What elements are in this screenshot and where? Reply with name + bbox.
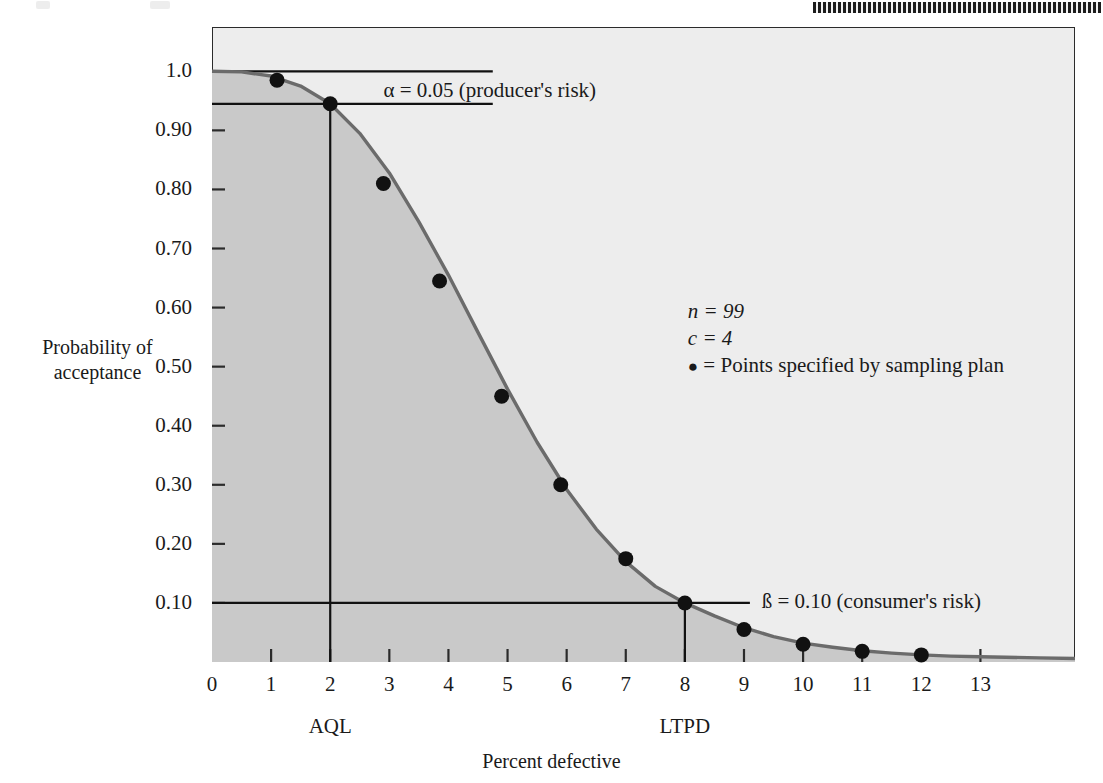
alpha-annotation: α = 0.05 (producer's risk) xyxy=(383,78,596,103)
x-tick-label: 12 xyxy=(901,674,941,695)
aql-label: AQL xyxy=(270,714,390,739)
x-tick-label: 9 xyxy=(724,674,764,695)
y-tick-label: 0.80 xyxy=(100,178,192,199)
legend-c: c = 4 xyxy=(688,326,733,350)
legend-n: n = 99 xyxy=(688,299,744,323)
x-tick-label: 3 xyxy=(369,674,409,695)
x-tick-label: 11 xyxy=(842,674,882,695)
data-point xyxy=(796,637,811,652)
y-tick-label: 0.70 xyxy=(100,238,192,259)
x-tick-label: 5 xyxy=(488,674,528,695)
data-point xyxy=(736,622,751,637)
x-tick-label: 7 xyxy=(606,674,646,695)
y-tick-label: 0.40 xyxy=(100,415,192,436)
x-axis-title: Percent defective xyxy=(0,750,1103,773)
y-axis-title-line-2: acceptance xyxy=(10,360,185,385)
x-tick-label: 6 xyxy=(547,674,587,695)
y-tick-label: 0.60 xyxy=(100,297,192,318)
data-point xyxy=(855,644,870,659)
y-tick-label: 0.20 xyxy=(100,533,192,554)
y-axis-title-line-1: Probability of xyxy=(10,335,185,360)
plan-legend: n = 99 c = 4 ● = Points specified by sam… xyxy=(688,298,1004,380)
data-point xyxy=(432,274,447,289)
data-point xyxy=(914,647,929,662)
x-tick-label: 10 xyxy=(783,674,823,695)
legend-points-text: = Points specified by sampling plan xyxy=(703,353,1004,377)
data-point xyxy=(553,477,568,492)
data-point xyxy=(270,73,285,88)
legend-point-icon: ● xyxy=(688,357,698,376)
x-tick-label: 8 xyxy=(665,674,705,695)
y-axis-title: Probability of acceptance xyxy=(10,335,185,385)
x-tick-label: 1 xyxy=(251,674,291,695)
data-point xyxy=(323,96,338,111)
data-point xyxy=(677,595,692,610)
data-point xyxy=(618,551,633,566)
ltpd-label: LTPD xyxy=(625,714,745,739)
beta-annotation: ß = 0.10 (consumer's risk) xyxy=(762,589,981,614)
y-tick-label: 0.90 xyxy=(100,119,192,140)
data-point xyxy=(376,176,391,191)
data-point xyxy=(494,389,509,404)
y-tick-label: 0.30 xyxy=(100,474,192,495)
oc-curve-figure: 0.100.200.300.400.500.600.700.800.901.0 … xyxy=(0,0,1103,783)
x-tick-label: 13 xyxy=(960,674,1000,695)
x-tick-label: 0 xyxy=(192,674,232,695)
x-tick-label: 4 xyxy=(428,674,468,695)
y-tick-label: 1.0 xyxy=(100,60,192,81)
y-tick-label: 0.10 xyxy=(100,592,192,613)
x-tick-label: 2 xyxy=(310,674,350,695)
